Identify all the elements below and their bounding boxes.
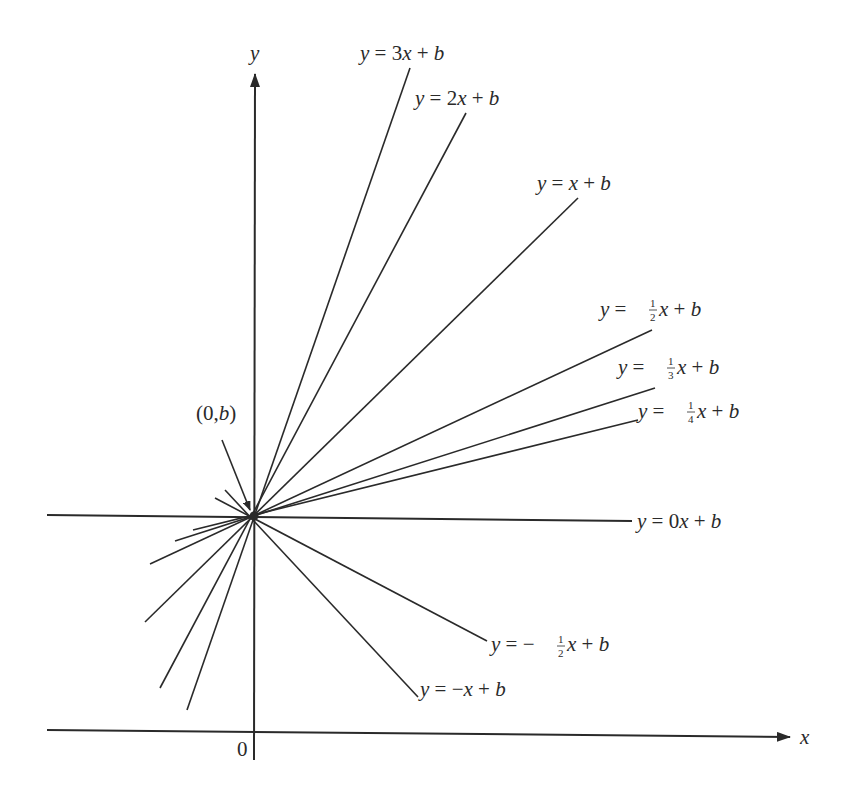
line-slope-3: [187, 68, 410, 710]
svg-text:2: 2: [558, 647, 564, 659]
svg-text:1: 1: [668, 355, 674, 367]
y-axis-label: y: [248, 41, 260, 65]
svg-text:1: 1: [650, 297, 656, 309]
origin-label: 0: [237, 737, 248, 761]
x-axis: [47, 730, 790, 737]
svg-text:y =: y =: [616, 355, 644, 379]
label-slope-half: y = 1 2 x + b: [598, 297, 701, 323]
svg-text:y =: y =: [598, 297, 626, 321]
svg-text:x + b: x + b: [696, 399, 739, 423]
svg-text:1: 1: [558, 633, 564, 645]
svg-text:y = −: y = −: [489, 632, 535, 656]
label-slope-2: y = 2x + b: [413, 86, 499, 110]
label-slope-0: y = 0x + b: [635, 509, 721, 533]
pointer-arrow: [222, 440, 250, 510]
svg-text:y =: y =: [636, 399, 664, 423]
svg-text:x + b: x + b: [676, 355, 719, 379]
svg-text:x + b: x + b: [658, 297, 701, 321]
label-slope-3: y = 3x + b: [358, 41, 444, 65]
svg-text:x + b: x + b: [566, 632, 609, 656]
label-slope-1: y = x + b: [535, 171, 611, 195]
y-axis: [254, 74, 255, 760]
svg-text:2: 2: [650, 311, 656, 323]
line-slope-0: [47, 515, 632, 521]
line-slope-quarter: [193, 420, 638, 530]
label-slope-neg-half: y = − 1 2 x + b: [489, 632, 609, 659]
label-slope-neg-1: y = −x + b: [418, 677, 506, 701]
svg-text:3: 3: [668, 369, 674, 381]
label-slope-third: y = 1 3 x + b: [616, 355, 719, 381]
svg-text:1: 1: [688, 399, 694, 411]
diagram-canvas: y x 0 (0,b) y = 3x + b y = 2x + b y = x …: [0, 0, 858, 793]
line-family: [145, 68, 655, 710]
point-label: (0,b): [196, 401, 236, 425]
svg-text:4: 4: [688, 413, 694, 425]
label-slope-quarter: y = 1 4 x + b: [636, 399, 739, 425]
point-0-b: [250, 512, 259, 521]
x-axis-label: x: [799, 725, 810, 749]
